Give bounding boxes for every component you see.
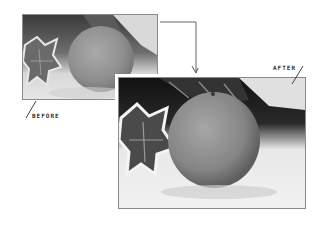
after-label: AFTER (273, 64, 296, 71)
after-photo (118, 77, 306, 209)
arrow-down-icon (192, 66, 198, 73)
before-label: BEFORE (32, 112, 60, 119)
before-to-after-connector (160, 22, 198, 73)
after-image (119, 78, 305, 208)
